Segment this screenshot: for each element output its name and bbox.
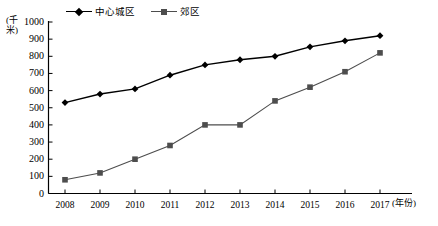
data-point <box>272 98 278 104</box>
data-point <box>167 72 174 79</box>
x-tick-label: 2013 <box>220 200 260 210</box>
data-point <box>377 32 384 39</box>
data-point <box>307 43 314 50</box>
y-tick-label: 800 <box>12 51 44 61</box>
data-point <box>342 37 349 44</box>
data-point <box>132 85 139 92</box>
y-tick-label: 300 <box>12 137 44 147</box>
data-point <box>62 177 68 183</box>
data-point <box>202 61 209 68</box>
y-tick-label: 600 <box>12 86 44 96</box>
plot-area <box>0 0 438 226</box>
y-tick-label: 0 <box>12 189 44 199</box>
y-tick-label: 700 <box>12 68 44 78</box>
y-tick-label: 1000 <box>12 17 44 27</box>
data-point <box>167 143 173 149</box>
x-tick-label: 2014 <box>255 200 295 210</box>
y-tick-label: 400 <box>12 120 44 130</box>
y-tick-label: 200 <box>12 154 44 164</box>
data-point <box>237 122 243 128</box>
data-point <box>237 56 244 63</box>
x-axis-unit-label: (年份) <box>392 198 416 208</box>
series-center-city <box>62 32 384 106</box>
series-lines <box>62 32 384 182</box>
x-tick-label: 2008 <box>45 200 85 210</box>
x-tick-label: 2010 <box>115 200 155 210</box>
x-tick-label: 2016 <box>325 200 365 210</box>
x-tick-label: 2009 <box>80 200 120 210</box>
data-point <box>132 156 138 162</box>
y-tick-label: 900 <box>12 34 44 44</box>
data-point <box>307 84 313 90</box>
y-tick-label: 100 <box>12 171 44 181</box>
data-point <box>97 170 103 176</box>
axis-lines <box>49 21 413 194</box>
data-point <box>342 69 348 75</box>
data-point <box>272 53 279 60</box>
data-point <box>202 122 208 128</box>
x-tick-label: 2011 <box>150 200 190 210</box>
x-tick-label: 2012 <box>185 200 225 210</box>
data-point <box>62 99 69 106</box>
series-suburb <box>62 50 383 183</box>
line-chart: (千米) 中心城区 郊区 100090080070060 <box>0 0 438 226</box>
data-point <box>377 50 383 56</box>
x-tick-label: 2015 <box>290 200 330 210</box>
data-point <box>97 91 104 98</box>
y-tick-label: 500 <box>12 103 44 113</box>
